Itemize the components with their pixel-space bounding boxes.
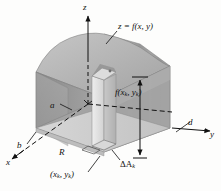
x-axis-label: x [6, 158, 10, 167]
prism-height-label: f(xk, yk) [115, 88, 141, 97]
prism-left-face [92, 76, 104, 150]
edge-b-label: b [17, 141, 22, 150]
sample-point-close: ) [71, 169, 74, 179]
sample-point-open: (x [50, 169, 57, 179]
figure-canvas [0, 0, 221, 191]
area-element-label: ΔAk [120, 160, 135, 169]
surface-equation-label: z = f(x, y) [118, 22, 153, 31]
prism-notch-dot [109, 70, 112, 73]
z-axis-label: z [83, 3, 87, 12]
prism-right-face [104, 74, 116, 150]
prism-height-part-1: f(x [115, 87, 125, 97]
area-element-sub: k [132, 163, 135, 169]
x-axis-arrow [12, 150, 24, 159]
delta-a-leader [112, 150, 120, 160]
area-element-delta: ΔA [120, 159, 132, 169]
prism-height-part-3: ) [138, 87, 141, 97]
region-label: R [59, 148, 65, 157]
edge-d-label: d [188, 118, 193, 127]
y-axis-label: y [210, 130, 214, 139]
double-integral-figure: z z = f(x, y) f(xk, yk) a b x d y R ΔAk … [0, 0, 221, 191]
sample-point-label: (xk, yk) [50, 170, 74, 179]
prism-height-part-2: , y [127, 87, 136, 97]
sample-point-leader [88, 156, 100, 172]
sample-point-mid: , y [60, 169, 69, 179]
edge-a-label: a [50, 101, 55, 110]
